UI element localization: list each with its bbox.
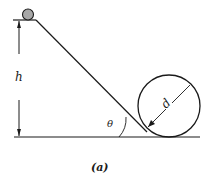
angle-label: θ	[107, 118, 113, 129]
arrow-up-icon	[17, 21, 21, 28]
incline	[36, 20, 147, 132]
arrow-down-icon	[17, 129, 21, 136]
angle-arc	[119, 117, 126, 137]
height-label: h	[15, 70, 23, 84]
figure-caption: (a)	[91, 161, 109, 174]
ball	[23, 9, 34, 20]
diagram-canvas: h θ d (a)	[0, 0, 208, 186]
